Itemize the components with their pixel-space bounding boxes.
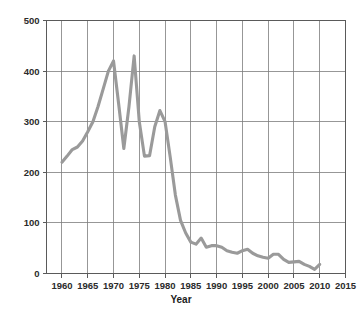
y-tick-label: 100 <box>24 217 40 228</box>
x-tick-label: 1990 <box>206 280 227 291</box>
x-tick-label: 2010 <box>309 280 330 291</box>
y-tick-label: 0 <box>34 268 39 279</box>
x-axis-title: Year <box>170 294 191 305</box>
chart-container: 1960196519701975198019851990199520002005… <box>0 0 363 322</box>
x-tick-label: 1965 <box>77 280 99 291</box>
x-tick-label: 1970 <box>103 280 124 291</box>
y-tick-label: 200 <box>24 167 40 178</box>
y-tick-label: 400 <box>24 66 40 77</box>
x-tick-label: 2005 <box>283 280 305 291</box>
x-tick-label: 1960 <box>51 280 72 291</box>
x-tick-label: 2015 <box>335 280 357 291</box>
x-tick-label: 1975 <box>129 280 151 291</box>
x-tick-label: 1995 <box>232 280 254 291</box>
x-tick-label: 2000 <box>258 280 279 291</box>
y-tick-label: 500 <box>24 15 40 26</box>
y-tick-label: 300 <box>24 116 40 127</box>
x-tick-label: 1985 <box>180 280 202 291</box>
line-chart: 1960196519701975198019851990199520002005… <box>0 0 363 322</box>
x-tick-label: 1980 <box>154 280 175 291</box>
